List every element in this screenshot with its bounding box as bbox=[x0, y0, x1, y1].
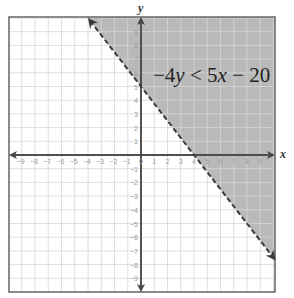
y-tick-label: −9 bbox=[130, 275, 138, 282]
y-tick-label: −2 bbox=[130, 179, 138, 186]
x-tick-label: 9 bbox=[258, 158, 262, 165]
x-tick-label: 7 bbox=[232, 158, 236, 165]
y-tick-label: −5 bbox=[130, 221, 138, 228]
x-tick-label: −2 bbox=[110, 158, 118, 165]
y-tick-label: 6 bbox=[134, 70, 138, 77]
y-tick-label: −8 bbox=[130, 262, 138, 269]
y-tick-label: 9 bbox=[134, 29, 138, 36]
x-tick-label: 4 bbox=[192, 158, 196, 165]
x-axis-label: x bbox=[279, 147, 286, 161]
y-tick-label: −4 bbox=[130, 207, 138, 214]
y-tick-label: 4 bbox=[134, 97, 138, 104]
x-tick-label: 2 bbox=[166, 158, 170, 165]
y-tick-label: 8 bbox=[134, 42, 138, 49]
x-tick-label: −3 bbox=[96, 158, 104, 165]
y-tick-label: 7 bbox=[134, 56, 138, 63]
x-tick-label: −9 bbox=[17, 158, 25, 165]
x-tick-label: −1 bbox=[123, 158, 131, 165]
x-tick-label: 3 bbox=[179, 158, 183, 165]
x-tick-label: 8 bbox=[245, 158, 249, 165]
x-tick-label: 5 bbox=[205, 158, 209, 165]
plot-area: −9−8−7−6−5−4−3−2−10123456789987654321−1−… bbox=[9, 17, 275, 292]
y-tick-label: −3 bbox=[130, 193, 138, 200]
y-tick-label: −7 bbox=[130, 248, 138, 255]
y-tick-label: 1 bbox=[134, 138, 138, 145]
y-tick-label: 5 bbox=[134, 84, 138, 91]
x-tick-label: 0 bbox=[139, 158, 143, 165]
x-tick-label: −6 bbox=[57, 158, 65, 165]
x-tick-label: 6 bbox=[219, 158, 223, 165]
y-tick-label: 2 bbox=[134, 125, 138, 132]
inequality-graph: −9−8−7−6−5−4−3−2−10123456789987654321−1−… bbox=[0, 0, 294, 298]
x-tick-label: −4 bbox=[83, 158, 91, 165]
y-tick-label: 3 bbox=[134, 111, 138, 118]
inequality-label: −4y < 5x − 20 bbox=[153, 63, 270, 87]
x-tick-label: −5 bbox=[70, 158, 78, 165]
y-tick-label: −6 bbox=[130, 234, 138, 241]
x-tick-label: −8 bbox=[30, 158, 38, 165]
x-tick-label: −7 bbox=[43, 158, 51, 165]
x-tick-label: 1 bbox=[152, 158, 156, 165]
y-tick-label: −1 bbox=[130, 166, 138, 173]
y-axis-label: y bbox=[136, 1, 144, 15]
